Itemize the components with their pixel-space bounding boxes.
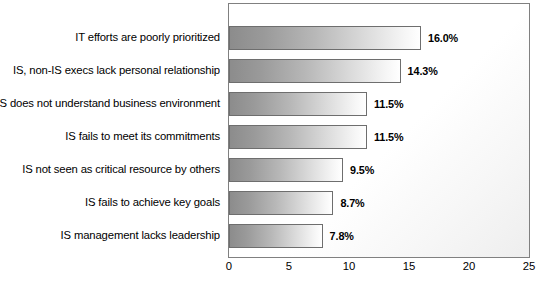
x-tick-label: 25 [523, 260, 536, 272]
bar-row: 9.5% [229, 158, 529, 182]
plot-background: 16.0%14.3%11.5%11.5%9.5%8.7%7.8% [229, 4, 529, 257]
horizontal-bar-chart: IT efforts are poorly prioritizedIS, non… [0, 0, 543, 282]
bar-value-label: 7.8% [330, 224, 354, 248]
x-tick-label: 15 [403, 260, 416, 272]
category-label: IS, non-IS execs lack personal relations… [13, 58, 220, 82]
category-label: IT efforts are poorly prioritized [75, 25, 220, 49]
bar-row: 8.7% [229, 191, 529, 215]
category-label: IS management lacks leadership [61, 223, 220, 247]
bar [229, 158, 343, 182]
category-label: IS fails to meet its commitments [65, 124, 220, 148]
bar-row: 7.8% [229, 224, 529, 248]
x-tick-label: 20 [463, 260, 476, 272]
bar-row: 11.5% [229, 125, 529, 149]
category-label: IS fails to achieve key goals [85, 190, 220, 214]
x-axis: 0510152025 [228, 260, 530, 278]
category-axis: IT efforts are poorly prioritizedIS, non… [0, 25, 224, 256]
category-label: IS not seen as critical resource by othe… [22, 157, 220, 181]
bar [229, 224, 323, 248]
bar-value-label: 16.0% [428, 26, 458, 50]
bar [229, 125, 367, 149]
x-tick-label: 0 [226, 260, 232, 272]
bar-value-label: 9.5% [350, 158, 374, 182]
bar-row: 16.0% [229, 26, 529, 50]
bar-value-label: 11.5% [374, 92, 404, 116]
bar-value-label: 8.7% [340, 191, 364, 215]
bar-value-label: 11.5% [374, 125, 404, 149]
category-label: IS does not understand business environm… [0, 91, 220, 115]
plot-area: 16.0%14.3%11.5%11.5%9.5%8.7%7.8% [228, 3, 530, 258]
bar [229, 191, 333, 215]
bar [229, 59, 401, 83]
x-tick-label: 10 [343, 260, 356, 272]
bar-row: 14.3% [229, 59, 529, 83]
bar [229, 92, 367, 116]
bar-row: 11.5% [229, 92, 529, 116]
bar [229, 26, 421, 50]
bar-value-label: 14.3% [408, 59, 438, 83]
x-tick-label: 5 [286, 260, 292, 272]
